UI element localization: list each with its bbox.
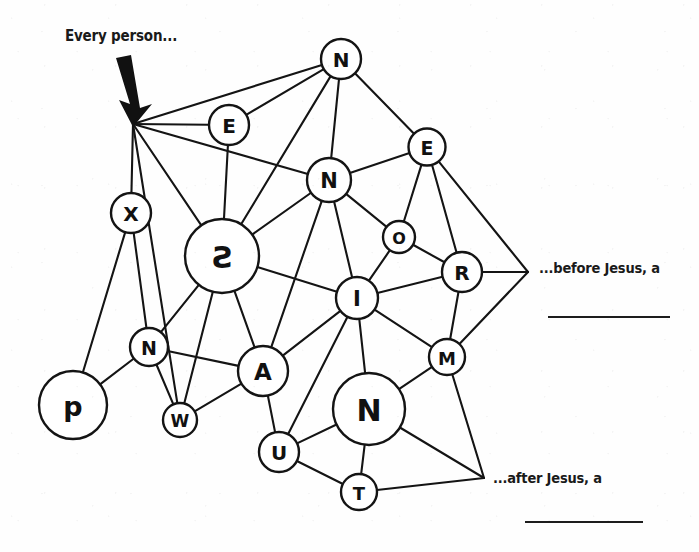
- blank-line-lower: [525, 521, 643, 523]
- node-label: U: [271, 441, 287, 465]
- graph-node-i[interactable]: I: [336, 277, 378, 319]
- graph-edge: [134, 233, 147, 328]
- node-label: M: [438, 348, 456, 369]
- graph-edge: [355, 73, 414, 133]
- graph-edge: [83, 232, 125, 372]
- graph-edge: [156, 364, 173, 404]
- graph-edge: [377, 277, 442, 293]
- node-label: E: [222, 114, 236, 138]
- graph-edge: [377, 478, 484, 490]
- graph-edge: [100, 359, 134, 385]
- node-label: T: [353, 483, 366, 504]
- down-arrow-icon: [116, 55, 152, 127]
- node-label: O: [392, 229, 406, 248]
- graph-node-n_big[interactable]: N: [333, 373, 405, 445]
- graph-node-n_top[interactable]: N: [321, 39, 361, 79]
- graph-node-x[interactable]: X: [111, 193, 151, 233]
- diagram-canvas: NEENXSORINMApWNUT Every person... ...bef…: [0, 0, 699, 552]
- graph-edge: [334, 201, 352, 277]
- graph-edge: [252, 193, 311, 235]
- graph-edge: [168, 351, 239, 366]
- arrow-layer: [116, 55, 152, 127]
- graph-edge: [369, 250, 390, 281]
- node-label: R: [454, 261, 469, 285]
- graph-node-e_right[interactable]: E: [409, 129, 446, 166]
- label-before-jesus: ...before Jesus, a: [539, 260, 660, 276]
- graph-edge: [184, 292, 213, 404]
- graph-edge: [241, 76, 331, 224]
- blank-line-upper: [548, 316, 670, 318]
- graph-edge: [133, 124, 209, 125]
- graph-edge: [350, 153, 410, 173]
- node-label: W: [171, 411, 190, 431]
- graph-edge: [161, 285, 199, 332]
- graph-node-n_small[interactable]: N: [130, 328, 168, 366]
- graph-edge: [404, 165, 422, 222]
- node-label: E: [421, 137, 434, 159]
- graph-edge: [268, 396, 275, 433]
- nodes-layer: NEENXSORINMApWNUT: [39, 39, 482, 510]
- graph-node-s[interactable]: S: [185, 219, 259, 293]
- graph-edge: [331, 79, 339, 158]
- graph-edge: [297, 425, 336, 444]
- node-label: S: [211, 240, 233, 275]
- graph-node-t[interactable]: T: [341, 474, 377, 510]
- node-label: I: [353, 287, 361, 311]
- graph-node-o[interactable]: O: [383, 221, 415, 253]
- graph-edge: [450, 292, 458, 340]
- graph-edge: [361, 445, 365, 474]
- graph-node-e_left[interactable]: E: [209, 105, 249, 145]
- node-label: N: [320, 169, 338, 193]
- node-label: N: [356, 393, 381, 428]
- node-label: N: [333, 48, 350, 72]
- graph-node-a[interactable]: A: [238, 346, 288, 396]
- graph-node-u[interactable]: U: [259, 432, 299, 472]
- node-label: X: [123, 202, 139, 226]
- graph-edge: [413, 245, 445, 263]
- label-every-person: Every person...: [65, 27, 177, 45]
- graph-edge: [359, 319, 365, 373]
- graph-edge: [131, 124, 133, 193]
- graph-edge: [195, 384, 242, 412]
- graph-node-p[interactable]: p: [39, 371, 107, 439]
- label-after-jesus: ...after Jesus, a: [493, 470, 602, 486]
- graph-node-n_mid[interactable]: N: [307, 158, 351, 202]
- node-label: p: [63, 391, 82, 422]
- graph-edge: [346, 194, 387, 227]
- node-label: A: [254, 359, 272, 385]
- graph-node-m[interactable]: M: [429, 339, 465, 375]
- graph-edge: [224, 145, 228, 219]
- graph-edge: [234, 291, 254, 348]
- graph-edge: [399, 367, 432, 389]
- node-label: N: [141, 337, 157, 359]
- graph-edge: [375, 310, 432, 348]
- graph-node-r[interactable]: R: [442, 252, 482, 292]
- graph-edge: [297, 461, 343, 484]
- graph-node-w[interactable]: W: [163, 403, 197, 437]
